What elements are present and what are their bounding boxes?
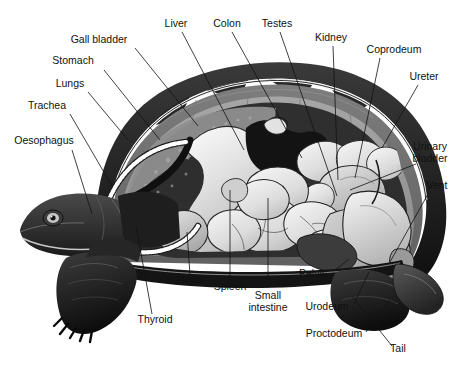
label-line: Tail bbox=[390, 342, 406, 354]
label-heart: Heart bbox=[177, 273, 203, 285]
label-line: Coprodeum bbox=[367, 43, 422, 55]
anatomy-figure: Gall bladderLiverColonTestesKidneyCoprod… bbox=[0, 0, 472, 372]
label-line: Testes bbox=[262, 17, 292, 29]
label-line: Pelvis bbox=[299, 267, 327, 279]
label-small-intestine: Smallintestine bbox=[248, 289, 287, 313]
label-coprodeum: Coprodeum bbox=[367, 43, 422, 55]
label-urodeum: Urodeum bbox=[305, 300, 348, 312]
label-line: Oesophagus bbox=[14, 134, 74, 146]
label-line: Lungs bbox=[56, 77, 85, 89]
label-line: Ureter bbox=[409, 70, 439, 82]
label-oesophagus: Oesophagus bbox=[14, 134, 74, 146]
label-ureter: Ureter bbox=[409, 70, 439, 82]
label-vent: Vent bbox=[426, 179, 447, 191]
label-kidney: Kidney bbox=[315, 31, 348, 43]
label-line: Stomach bbox=[52, 54, 94, 66]
label-line: Small bbox=[255, 289, 281, 301]
label-line: Urinary bbox=[413, 140, 448, 152]
label-gall-bladder: Gall bladder bbox=[71, 33, 128, 45]
label-pelvis: Pelvis bbox=[299, 267, 327, 279]
label-line: bladder bbox=[412, 152, 448, 164]
spleen-organ bbox=[222, 179, 248, 203]
label-spleen: Spleen bbox=[214, 280, 247, 292]
eye-icon bbox=[43, 210, 63, 226]
label-line: Proctodeum bbox=[306, 327, 363, 339]
label-liver: Liver bbox=[165, 17, 188, 29]
label-testes: Testes bbox=[262, 17, 292, 29]
label-line: Vent bbox=[426, 179, 447, 191]
anatomy-illustration: Gall bladderLiverColonTestesKidneyCoprod… bbox=[0, 0, 472, 372]
label-trachea: Trachea bbox=[28, 99, 66, 111]
leader-line-trachea bbox=[70, 114, 112, 186]
label-colon: Colon bbox=[213, 17, 241, 29]
label-line: Spleen bbox=[214, 280, 247, 292]
label-line: Liver bbox=[165, 17, 188, 29]
label-line: Urodeum bbox=[305, 300, 348, 312]
label-line: intestine bbox=[248, 301, 287, 313]
label-tail: Tail bbox=[390, 342, 406, 354]
label-line: Gall bladder bbox=[71, 33, 128, 45]
label-proctodeum: Proctodeum bbox=[306, 327, 363, 339]
leader-line-lungs bbox=[88, 92, 128, 140]
label-line: Thyroid bbox=[137, 313, 172, 325]
label-line: Heart bbox=[177, 273, 203, 285]
label-line: Colon bbox=[213, 17, 241, 29]
label-line: Kidney bbox=[315, 31, 348, 43]
label-line: Trachea bbox=[28, 99, 66, 111]
label-stomach: Stomach bbox=[52, 54, 94, 66]
label-urinary-bladder: Urinarybladder bbox=[412, 140, 448, 164]
label-thyroid: Thyroid bbox=[137, 313, 172, 325]
label-lungs: Lungs bbox=[56, 77, 85, 89]
